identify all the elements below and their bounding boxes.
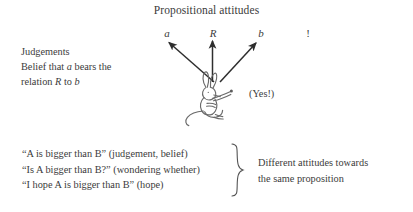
- list-item: “Is A bigger than B?” (wondering whether…: [22, 162, 227, 178]
- judgements-line-3-mid: to: [61, 76, 74, 87]
- list-item: “A is bigger than B” (judgement, belief): [22, 146, 227, 162]
- judgements-line-3-prefix: relation: [21, 76, 55, 87]
- example-sentences-list: “A is bigger than B” (judgement, belief)…: [22, 146, 227, 193]
- rabbit-sketch-icon: [184, 70, 248, 128]
- propositional-attitudes-figure: Propositional attitudes a R b !: [0, 0, 413, 212]
- yes-annotation: (Yes!): [249, 88, 274, 99]
- exclamation-label: !: [301, 27, 315, 39]
- judgements-line-3: relation R to b: [21, 74, 156, 89]
- summary-line-2: the same proposition: [258, 171, 408, 187]
- right-curly-brace-icon: [228, 143, 248, 197]
- list-item: “I hope A is bigger than B” (hope): [22, 177, 227, 193]
- judgements-heading: Judgements: [21, 44, 156, 59]
- summary-caption: Different attitudes towards the same pro…: [258, 155, 408, 186]
- judgements-line-2-prefix: Belief that: [21, 61, 67, 72]
- judgements-text-block: Judgements Belief that a bears the relat…: [21, 44, 156, 89]
- figure-title: Propositional attitudes: [0, 4, 413, 16]
- summary-line-1: Different attitudes towards: [258, 155, 408, 171]
- judgements-line-2-suffix: bears the: [72, 61, 111, 72]
- judgements-line-3-variable-b: b: [75, 76, 80, 87]
- judgements-line-2: Belief that a bears the: [21, 59, 156, 74]
